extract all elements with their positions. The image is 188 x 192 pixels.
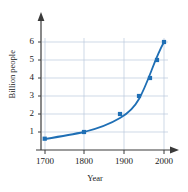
data-point xyxy=(82,130,86,134)
horizontal-gridlines xyxy=(42,42,168,132)
ytick-label-1: 1 xyxy=(20,127,34,136)
data-point xyxy=(118,112,122,116)
ytick-label-2: 2 xyxy=(20,109,34,118)
data-point xyxy=(148,76,152,80)
right-arrow-icon xyxy=(170,147,179,154)
xtick-label-1900: 1900 xyxy=(107,157,141,166)
x-axis-title: Year xyxy=(62,174,128,183)
xtick-label-1800: 1800 xyxy=(67,157,101,166)
data-point xyxy=(43,137,47,141)
ytick-label-6: 6 xyxy=(20,37,34,46)
data-point xyxy=(162,40,166,44)
xtick-label-2000: 2000 xyxy=(147,157,181,166)
vertical-gridlines xyxy=(45,38,164,150)
ytick-label-4: 4 xyxy=(20,73,34,82)
up-arrow-icon xyxy=(38,12,45,21)
x-tick-marks xyxy=(45,150,164,154)
population-growth-chart: 6 5 4 3 2 1 1700 1800 1900 2000 Billion … xyxy=(0,0,188,192)
xtick-label-1700: 1700 xyxy=(28,157,62,166)
ytick-label-3: 3 xyxy=(20,91,34,100)
data-point xyxy=(137,94,141,98)
y-axis-title: Billion people xyxy=(8,44,17,104)
population-curve xyxy=(45,42,164,139)
ytick-label-5: 5 xyxy=(20,55,34,64)
data-point xyxy=(155,58,159,62)
